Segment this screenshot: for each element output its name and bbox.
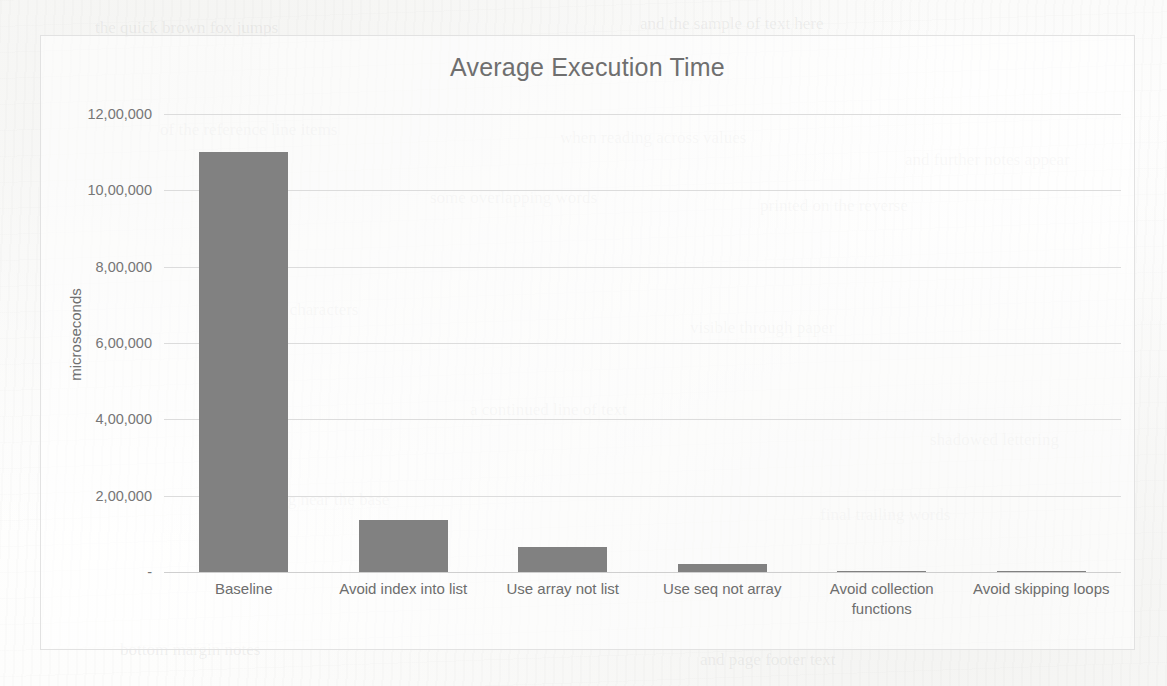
- bar[interactable]: [997, 571, 1086, 572]
- y-tick-label: 8,00,000: [96, 259, 152, 275]
- y-axis-title: microseconds: [67, 255, 84, 415]
- bar-slot: [643, 114, 802, 572]
- plot-area: -2,00,0004,00,0006,00,0008,00,00010,00,0…: [164, 114, 1121, 572]
- bar-slot: [164, 114, 323, 572]
- y-tick-label: 4,00,000: [96, 411, 152, 427]
- gridline-0: [164, 572, 1121, 573]
- chart-frame: Average Execution Time microseconds -2,0…: [40, 35, 1135, 650]
- y-tick-label: 6,00,000: [96, 335, 152, 351]
- bar[interactable]: [199, 152, 288, 572]
- bar-slot: [802, 114, 961, 572]
- category-label: Use array not list: [483, 579, 642, 599]
- bar[interactable]: [359, 520, 448, 572]
- bar[interactable]: [518, 547, 607, 572]
- category-axis: BaselineAvoid index into listUse array n…: [164, 579, 1121, 641]
- category-label: Avoid collection functions: [802, 579, 961, 619]
- y-tick-label: -: [147, 564, 152, 580]
- chart-title: Average Execution Time: [41, 53, 1134, 82]
- bar-slot: [483, 114, 642, 572]
- category-label: Use seq not array: [643, 579, 802, 599]
- bar-slot: [962, 114, 1121, 572]
- category-label: Baseline: [164, 579, 323, 599]
- bar[interactable]: [837, 571, 926, 572]
- y-tick-label: 10,00,000: [87, 182, 152, 198]
- bar[interactable]: [678, 564, 767, 572]
- y-tick-label: 12,00,000: [87, 106, 152, 122]
- y-tick-label: 2,00,000: [96, 488, 152, 504]
- category-label: Avoid skipping loops: [962, 579, 1121, 599]
- bar-slot: [323, 114, 482, 572]
- category-label: Avoid index into list: [323, 579, 482, 599]
- bars-layer: [164, 114, 1121, 572]
